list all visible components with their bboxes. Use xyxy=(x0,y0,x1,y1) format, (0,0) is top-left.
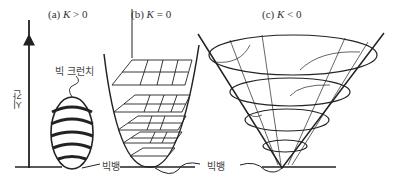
panel-c-label: (c) K < 0 xyxy=(262,8,302,20)
big-bang-label-1: 빅뱅 xyxy=(102,158,120,173)
panel-c-var: K xyxy=(277,8,284,20)
panel-b-var: K xyxy=(147,8,154,20)
flat-universe-shape xyxy=(104,9,200,174)
panel-c-rel: < 0 xyxy=(287,8,301,20)
panel-b-rel: = 0 xyxy=(157,8,171,20)
panel-a-prefix: (a) xyxy=(48,8,60,20)
big-crunch-label: 빅 크런치 xyxy=(55,63,94,78)
panel-b-prefix: (b) xyxy=(131,8,144,20)
cosmology-diagram xyxy=(0,0,396,187)
panel-c-prefix: (c) xyxy=(262,8,274,20)
panel-a-label: (a) K > 0 xyxy=(48,8,88,20)
time-axis-label: 시간 xyxy=(10,90,25,110)
panel-a-rel: > 0 xyxy=(73,8,87,20)
panel-a-var: K xyxy=(63,8,70,20)
big-bang-label-2: 빅뱅 xyxy=(207,158,225,173)
open-universe-shape xyxy=(198,33,384,172)
closed-universe-shape xyxy=(51,76,100,169)
panel-b-label: (b) K = 0 xyxy=(131,8,171,20)
